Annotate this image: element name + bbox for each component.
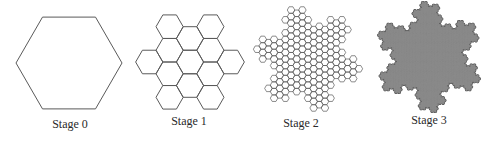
hex-cells: [136, 15, 245, 109]
stage-1-hex-star: [136, 15, 245, 109]
stage-1-label: Stage 1: [171, 114, 207, 129]
stage-0-label: Stage 0: [52, 117, 88, 132]
stage-3-filled-star: [378, 2, 481, 113]
stage-3-label: Stage 3: [411, 113, 447, 128]
stage-2-label: Stage 2: [283, 116, 319, 131]
stage-0-hexagon: [16, 17, 122, 109]
filled-hex-cells: [378, 2, 481, 113]
stage-2-hex-star: [253, 7, 362, 111]
hex-cells: [253, 7, 362, 111]
hex-cells: [16, 17, 122, 109]
